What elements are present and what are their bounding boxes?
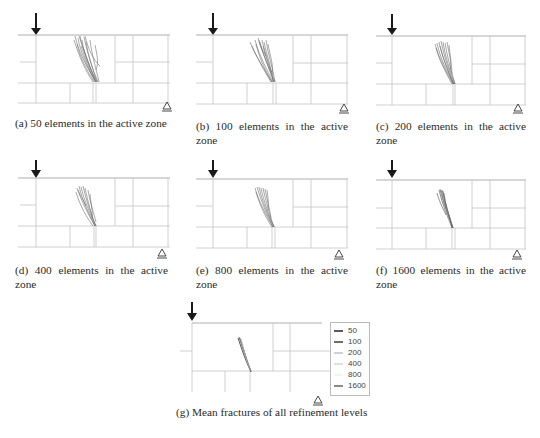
legend-item-1600: 1600 [331,380,369,391]
beam-mesh-figure [0,0,180,115]
caption-f: (f) 1600 elements in the active zone [376,264,526,291]
mesh-grid [376,180,526,249]
legend-swatch [334,374,343,376]
mean-crack-paths [238,337,251,372]
support-triangle-icon [313,396,323,405]
legend-swatch [334,341,343,343]
load-arrow-icon [208,13,218,35]
crack-paths [435,41,455,84]
load-arrow-icon [31,13,41,35]
support-triangle-icon [512,250,522,259]
load-arrow-icon [31,160,41,178]
support-triangle-icon [157,249,167,258]
panel-c: (c) 200 elements in the active zone [360,0,540,150]
crack-paths [76,186,96,226]
legend-label: 50 [348,326,357,335]
support-triangle-icon [334,250,344,259]
legend-item-800: 800 [331,369,369,380]
crack-paths [255,187,274,227]
load-arrow-icon [187,302,197,321]
legend-item-50: 50 [331,325,369,336]
panel-e: (e) 800 elements in the active zone [180,160,360,290]
caption-g: (g) Mean fractures of all refinement lev… [176,406,396,420]
legend: 50 100 200 400 800 1600 [330,322,370,396]
legend-swatch [334,363,343,365]
legend-label: 100 [348,337,361,346]
beam-mesh-figure [180,160,360,260]
beam-mesh-figure [360,160,540,260]
legend-item-200: 200 [331,347,369,358]
mesh-grid [18,35,170,103]
legend-swatch [334,330,343,332]
legend-label: 200 [348,348,361,357]
crack-paths [74,36,100,82]
mesh-grid [196,35,348,104]
load-arrow-icon [387,14,397,35]
beam-mesh-figure [0,160,180,260]
panel-a: (a) 50 elements in the active zone [0,0,180,150]
legend-item-100: 100 [331,336,369,347]
caption-d: (d) 400 elements in the active zone [15,264,168,291]
load-arrow-icon [208,160,218,178]
caption-b: (b) 100 elements in the active zone [196,120,348,147]
crack-paths [437,189,453,228]
caption-c: (c) 200 elements in the active zone [376,120,526,147]
legend-item-400: 400 [331,358,369,369]
mesh-grid [180,323,330,392]
support-triangle-icon [339,104,349,113]
crack-paths [250,38,275,82]
legend-swatch [334,352,343,354]
panel-f: (f) 1600 elements in the active zone [360,160,540,290]
panel-d: (d) 400 elements in the active zone [0,160,180,290]
caption-a: (a) 50 elements in the active zone [15,117,185,131]
legend-label: 400 [348,359,361,368]
mesh-grid [196,179,348,248]
legend-label: 1600 [348,381,366,390]
load-arrow-icon [387,160,397,178]
beam-mesh-figure [180,0,360,115]
beam-mesh-figure [360,0,540,115]
caption-e: (e) 800 elements in the active zone [196,264,348,291]
legend-label: 800 [348,370,361,379]
legend-swatch [334,385,343,387]
panel-g: 50 100 200 400 800 1600 (g) Mean fractur… [180,300,380,425]
mesh-grid [18,178,170,247]
panel-b: (b) 100 elements in the active zone [180,0,360,150]
